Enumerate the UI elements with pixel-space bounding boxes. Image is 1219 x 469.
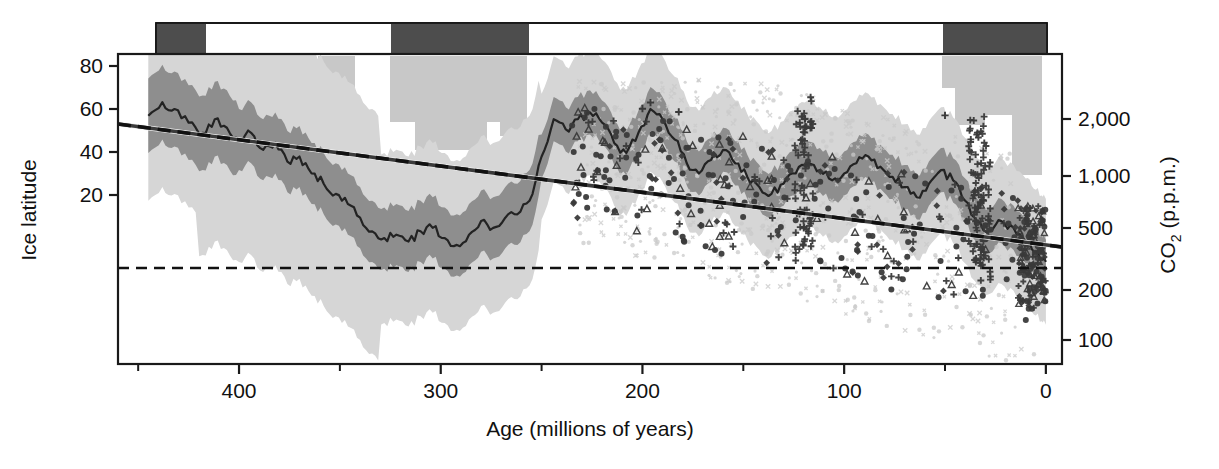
proxy-marker-circle	[759, 146, 765, 152]
proxy-marker-circle	[778, 224, 784, 230]
proxy-marker-circle	[739, 221, 743, 225]
proxy-marker-circle	[787, 283, 791, 287]
x-tick-label-100: 100	[827, 379, 862, 402]
proxy-marker-circle	[1035, 300, 1041, 306]
proxy-marker-circle	[613, 129, 619, 135]
glaciation-bar	[156, 23, 1047, 54]
proxy-marker-circle	[853, 196, 859, 202]
right-axis-title-main: CO	[1156, 242, 1179, 274]
proxy-marker-circle	[905, 239, 911, 245]
paleolat-block-3	[390, 56, 527, 122]
proxy-marker-circle	[1023, 317, 1029, 323]
proxy-marker-circle	[819, 204, 822, 207]
proxy-marker-circle	[715, 115, 718, 118]
x-tick-label-0: 0	[1040, 379, 1052, 402]
proxy-marker-circle	[709, 185, 713, 189]
proxy-marker-circle	[814, 227, 818, 231]
proxy-marker-circle	[681, 136, 685, 140]
right-tick-label-2000: 2,000	[1078, 107, 1131, 130]
proxy-marker-circle	[978, 341, 982, 345]
proxy-marker-circle	[931, 201, 934, 204]
proxy-marker-circle	[739, 272, 742, 275]
proxy-marker-circle	[755, 274, 759, 278]
proxy-marker-circle	[915, 140, 918, 143]
proxy-marker-circle	[866, 252, 869, 255]
proxy-marker-circle	[806, 299, 809, 302]
proxy-marker-circle	[810, 269, 813, 272]
proxy-marker-circle	[813, 182, 819, 188]
right-axis-title-subscript: 2	[1168, 234, 1184, 242]
proxy-marker-circle	[806, 203, 809, 206]
proxy-marker-circle	[1024, 255, 1030, 261]
proxy-marker-circle	[877, 249, 880, 252]
proxy-marker-circle	[631, 110, 635, 114]
proxy-marker-circle	[682, 254, 685, 257]
proxy-marker-circle	[603, 124, 609, 130]
proxy-marker-circle	[922, 180, 928, 186]
proxy-marker-circle	[932, 336, 935, 339]
proxy-marker-circle	[580, 172, 586, 178]
proxy-marker-circle	[761, 101, 764, 104]
proxy-marker-circle	[660, 118, 666, 124]
proxy-marker-circle	[623, 154, 629, 160]
proxy-marker-circle	[578, 231, 582, 235]
proxy-marker-circle	[693, 129, 697, 133]
proxy-marker-circle	[864, 311, 868, 315]
proxy-marker-circle	[698, 208, 704, 214]
proxy-marker-circle	[586, 163, 589, 166]
proxy-marker-circle	[649, 227, 652, 230]
proxy-marker-circle	[761, 224, 765, 228]
right-tick-label-500: 500	[1078, 216, 1113, 239]
proxy-marker-circle	[647, 136, 650, 139]
proxy-marker-circle	[623, 241, 626, 244]
proxy-marker-circle	[758, 90, 762, 94]
proxy-marker-circle	[937, 329, 941, 333]
proxy-marker-circle	[876, 228, 879, 231]
proxy-marker-circle	[912, 173, 918, 179]
proxy-marker-circle	[704, 149, 707, 152]
proxy-marker-circle	[953, 243, 959, 249]
proxy-marker-circle	[666, 180, 672, 186]
proxy-marker-circle	[816, 285, 819, 288]
proxy-marker-circle	[879, 310, 882, 313]
proxy-marker-circle	[880, 300, 883, 303]
right-axis-title-units: (p.p.m.)	[1156, 156, 1179, 234]
figure-root: 80604020 2,0001,000500200100 40030020010…	[0, 0, 1219, 469]
proxy-marker-circle	[725, 183, 731, 189]
proxy-marker-circle	[740, 214, 746, 220]
proxy-marker-circle	[774, 222, 777, 225]
proxy-marker-circle	[778, 91, 782, 95]
proxy-marker-circle	[846, 133, 849, 136]
proxy-marker-circle	[629, 125, 633, 129]
proxy-marker-circle	[780, 252, 784, 256]
proxy-marker-circle	[1032, 352, 1036, 356]
proxy-marker-circle	[697, 79, 700, 82]
proxy-marker-circle	[584, 110, 590, 116]
proxy-marker-circle	[662, 232, 666, 236]
proxy-marker-circle	[649, 131, 655, 137]
proxy-marker-circle	[613, 105, 617, 109]
proxy-marker-circle	[777, 154, 781, 158]
proxy-marker-circle	[622, 175, 628, 181]
proxy-marker-circle	[755, 109, 758, 112]
proxy-marker-circle	[593, 204, 596, 207]
proxy-marker-circle	[647, 230, 650, 233]
proxy-marker-circle	[869, 255, 873, 259]
proxy-marker-circle	[824, 144, 828, 148]
proxy-marker-circle	[685, 145, 691, 151]
proxy-marker-circle	[839, 255, 845, 261]
proxy-marker-circle	[851, 152, 855, 156]
proxy-marker-circle	[634, 86, 637, 89]
bottom-axis-title: Age (millions of years)	[486, 417, 694, 440]
proxy-marker-circle	[837, 288, 841, 292]
proxy-marker-circle	[886, 200, 889, 203]
proxy-marker-circle	[735, 269, 738, 272]
proxy-marker-circle	[716, 86, 719, 89]
proxy-marker-circle	[578, 223, 581, 226]
proxy-marker-circle	[1030, 229, 1036, 235]
proxy-marker-circle	[836, 251, 839, 254]
proxy-marker-circle	[583, 194, 589, 200]
proxy-marker-circle	[601, 107, 605, 111]
proxy-marker-circle	[736, 250, 740, 254]
proxy-marker-circle	[879, 269, 885, 275]
